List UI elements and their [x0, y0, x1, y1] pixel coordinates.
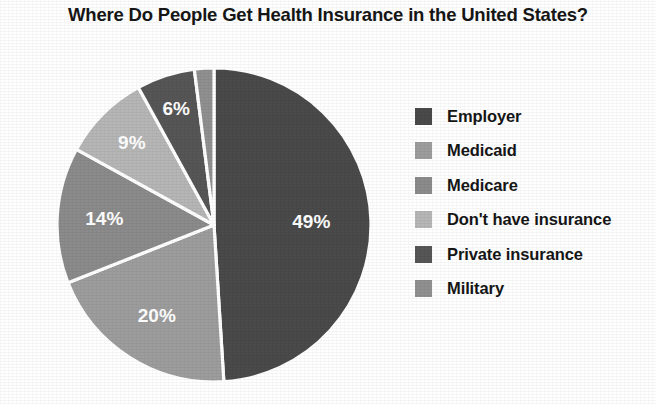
legend-swatch-icon — [415, 177, 432, 194]
legend-item: Medicare — [415, 168, 650, 203]
legend-item-label: Employer — [447, 107, 521, 126]
legend-item: Don't have insurance — [415, 203, 650, 238]
pie-chart: 49%20%14%9%6%2% — [48, 58, 388, 398]
legend-item: Private insurance — [415, 237, 650, 272]
legend-swatch-icon — [415, 211, 432, 228]
pie-slice-label: 9% — [118, 132, 146, 153]
chart-title: Where Do People Get Health Insurance in … — [0, 4, 656, 26]
legend-item-label: Medicaid — [447, 141, 517, 160]
pie-slice-label: 49% — [292, 211, 330, 232]
legend-item: Medicaid — [415, 134, 650, 169]
legend-item-label: Medicare — [447, 176, 518, 195]
legend-swatch-icon — [415, 246, 432, 263]
legend-swatch-icon — [415, 108, 432, 125]
legend-item: Employer — [415, 99, 650, 134]
chart-legend: EmployerMedicaidMedicareDon't have insur… — [415, 99, 650, 306]
pie-slice-label: 6% — [162, 98, 190, 119]
legend-item: Military — [415, 272, 650, 307]
legend-item-label: Private insurance — [447, 245, 583, 264]
pie-slice-label: 14% — [85, 208, 123, 229]
legend-swatch-icon — [415, 280, 432, 297]
pie-chart-svg: 49%20%14%9%6%2% — [48, 58, 388, 398]
legend-item-label: Don't have insurance — [447, 210, 611, 229]
legend-item-label: Military — [447, 279, 504, 298]
pie-slice-label: 20% — [138, 305, 176, 326]
legend-swatch-icon — [415, 142, 432, 159]
